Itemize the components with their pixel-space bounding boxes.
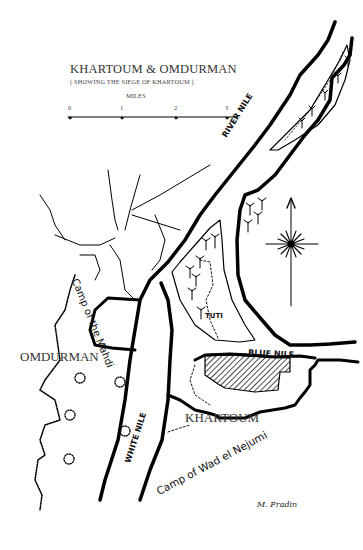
scale-tick-2: 2: [174, 104, 177, 111]
river-island-north: [270, 45, 350, 150]
white-nile-east-bank: [140, 283, 172, 500]
mahdi-camp-trail: [35, 275, 75, 510]
map-title: KHARTOUM & OMDURMAN: [70, 62, 237, 77]
siege-area: [205, 355, 290, 392]
artist-signature: M. Fradin: [257, 500, 297, 509]
map-subtitle: ( SHOWING THE SIEGE OF KHARTOUM ): [70, 78, 194, 85]
scale-unit-label: MILES: [126, 92, 146, 99]
label-khartoum: KHARTOUM: [185, 410, 259, 426]
palm-tree-icon: [186, 56, 351, 319]
scale-bar: [68, 117, 238, 119]
omdurman-roads: [40, 165, 210, 300]
scale-tick-3: 3: [225, 104, 228, 111]
compass-rose: [266, 198, 318, 306]
label-omdurman: OMDURMAN: [20, 349, 99, 365]
scale-tick-1: 1: [120, 104, 123, 111]
label-tuti: TUTI: [205, 312, 223, 320]
scale-tick-0: 0: [68, 104, 71, 111]
